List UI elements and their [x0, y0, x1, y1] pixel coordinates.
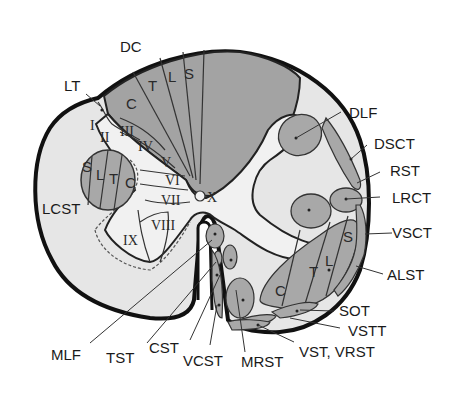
label-vsct: VSCT: [392, 224, 432, 241]
dc-segment-c: C: [126, 95, 137, 112]
lamina-x: X: [207, 190, 217, 205]
lamina-ii: II: [100, 130, 110, 145]
alst-segment-c: C: [275, 282, 286, 299]
label-lt: LT: [64, 77, 80, 94]
label-rst: RST: [390, 162, 420, 179]
label-sot: SOT: [339, 302, 370, 319]
lcst-segment-t: T: [109, 170, 118, 187]
label-alst: ALST: [387, 266, 425, 283]
lamina-iv: IV: [138, 139, 153, 154]
label-dsct: DSCT: [374, 135, 415, 152]
label-mrst: MRST: [241, 353, 284, 370]
label-tst: TST: [106, 349, 134, 366]
lamina-v: V: [161, 155, 171, 170]
label-dc: DC: [120, 38, 142, 55]
lamina-viii: VIII: [151, 218, 175, 233]
rst-tract: [291, 194, 331, 228]
lt-dot: [100, 108, 103, 111]
label-vcst: VCST: [183, 352, 223, 369]
spinal-cord-diagram: DC LT LCST DLF DSCT RST LRCT VSCT ALST S…: [0, 0, 459, 403]
label-lcst: LCST: [42, 200, 80, 217]
lamina-vii: VII: [161, 193, 181, 208]
mlf-tract: [206, 224, 224, 248]
dc-segment-t: T: [148, 77, 157, 94]
mrst-tract: [226, 278, 254, 318]
dc-segment-l: L: [168, 68, 176, 85]
alst-segment-s: S: [343, 228, 353, 245]
lamina-vi: VI: [165, 173, 180, 188]
label-dlf: DLF: [349, 104, 377, 121]
label-mlf: MLF: [51, 346, 81, 363]
dc-segment-s: S: [184, 65, 194, 82]
alst-segment-l: L: [325, 252, 333, 269]
cst-tract: [223, 245, 237, 269]
lcst-segment-l: L: [96, 166, 104, 183]
lcst-segment-c: C: [125, 174, 136, 191]
alst-segment-t: T: [309, 263, 318, 280]
lamina-iii: III: [120, 124, 134, 139]
label-vst-vrst: VST, VRST: [299, 343, 375, 360]
lamina-ix: IX: [123, 233, 138, 248]
label-vstt: VSTT: [348, 322, 386, 339]
central-canal: [195, 191, 205, 201]
label-lrct: LRCT: [392, 189, 431, 206]
lcst-segment-s: S: [82, 158, 92, 175]
lamina-i: I: [90, 118, 95, 133]
label-cst: CST: [149, 339, 179, 356]
